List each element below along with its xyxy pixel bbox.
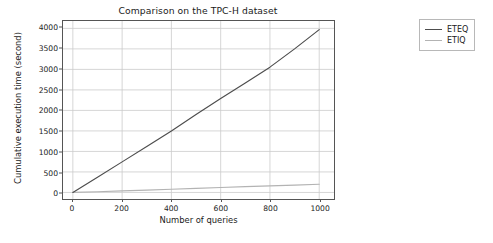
chart-title: Comparison on the TPC-H dataset [60,5,336,16]
legend-item-eteq[interactable]: ETEQ [425,24,468,35]
x-axis-label: Number of queries [62,215,335,225]
y-tick-mark [59,131,62,132]
legend-line-swatch [425,29,442,30]
legend-item-etiq[interactable]: ETIQ [425,35,468,46]
y-tick-mark [59,172,62,173]
y-tick-mark [59,193,62,194]
y-tick-mark [59,151,62,152]
legend-line-swatch [425,40,442,41]
x-tick-mark [320,199,321,202]
series-lines [63,21,334,199]
y-tick-label: 2500 [18,85,58,94]
x-tick-mark [122,199,123,202]
plot-area [62,20,335,200]
x-tick-mark [171,199,172,202]
x-tick-mark [270,199,271,202]
y-tick-label: 1500 [18,127,58,136]
x-tick-label: 800 [250,204,290,213]
y-tick-mark [59,68,62,69]
chart-figure: Comparison on the TPC-H dataset 05001000… [0,0,493,243]
x-tick-label: 200 [102,204,142,213]
y-tick-mark [59,89,62,90]
y-tick-mark [59,27,62,28]
y-axis-label: Cumulative execution time (second) [13,18,23,198]
y-tick-label: 2000 [18,106,58,115]
y-tick-label: 0 [18,189,58,198]
y-tick-label: 500 [18,168,58,177]
y-tick-label: 3000 [18,64,58,73]
y-tick-label: 4000 [18,23,58,32]
y-tick-mark [59,110,62,111]
x-axis-ticks: 02004006008001000 [62,202,335,216]
x-tick-label: 400 [151,204,191,213]
x-tick-mark [221,199,222,202]
legend-label: ETIQ [447,35,466,46]
y-tick-label: 1000 [18,147,58,156]
x-tick-label: 1000 [300,204,340,213]
legend-label: ETEQ [447,24,468,35]
series-line-eteq [73,30,319,193]
x-tick-label: 600 [201,204,241,213]
y-tick-mark [59,48,62,49]
chart-legend: ETEQETIQ [419,19,475,51]
y-tick-label: 3500 [18,44,58,53]
series-line-etiq [73,184,319,192]
x-tick-label: 0 [52,204,92,213]
x-tick-mark [72,199,73,202]
